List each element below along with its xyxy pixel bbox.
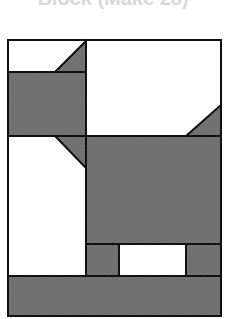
between-legs-white <box>119 244 186 276</box>
front-leg <box>86 244 119 276</box>
back-leg <box>186 244 221 276</box>
bottom-band <box>8 276 221 316</box>
body-rectangle <box>86 136 221 244</box>
head-rectangle <box>8 72 86 136</box>
quilt-block-diagram <box>0 0 226 319</box>
